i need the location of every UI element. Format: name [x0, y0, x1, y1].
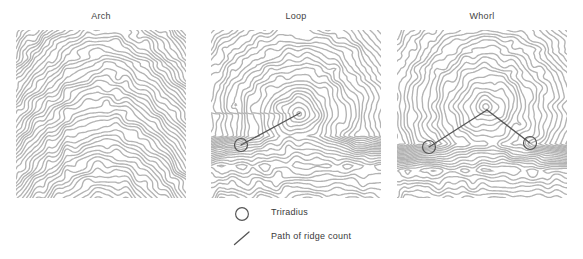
ridge-count-line-icon [231, 227, 253, 249]
fingerprint-ridges-arch [16, 30, 186, 198]
legend-item-triradius: Triradius [231, 203, 461, 227]
fingerprint-pattern-figure: Arch Loop Whorl Triradius Path of ridge … [0, 0, 583, 259]
legend: Triradius Path of ridge count [231, 203, 461, 251]
legend-label-triradius: Triradius [271, 207, 308, 217]
panel-title-loop: Loop [246, 11, 346, 21]
legend-item-ridge-count: Path of ridge count [231, 227, 461, 251]
panel-title-whorl: Whorl [432, 11, 532, 21]
legend-label-ridge-count: Path of ridge count [271, 231, 351, 241]
fingerprint-ridges-whorl [397, 30, 567, 198]
fingerprint-panel-arch [16, 30, 186, 198]
panel-title-arch: Arch [51, 11, 151, 21]
fingerprint-panel-whorl [397, 30, 567, 198]
fingerprint-panel-loop [211, 30, 381, 198]
fingerprint-ridges-loop [211, 30, 381, 198]
triradius-circle-icon [231, 203, 253, 225]
